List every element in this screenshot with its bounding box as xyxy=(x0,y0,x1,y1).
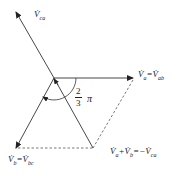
label-vca: V̇ca xyxy=(34,10,45,21)
label-va-vab: V̇a=V̇ab xyxy=(138,70,164,81)
vector-vb xyxy=(16,78,54,148)
angle-fraction: 2 3 xyxy=(75,87,82,108)
vector-vca xyxy=(16,12,54,78)
label-va-plus-vb: V̇a+V̇b=−V̇ca xyxy=(110,147,156,158)
inner-arrow-icon xyxy=(54,79,58,85)
label-vb-vbc: V̇b=V̇bc xyxy=(8,155,34,166)
phasor-diagram xyxy=(0,0,185,176)
angle-pi: π xyxy=(87,93,92,104)
dashed-line-va-to-sum xyxy=(93,80,133,148)
